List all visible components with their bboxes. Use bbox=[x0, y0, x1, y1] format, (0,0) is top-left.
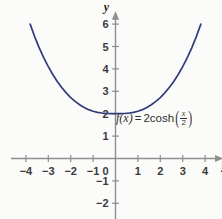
y-tick-label: −2 bbox=[96, 197, 109, 209]
equation-fraction-denominator: 2 bbox=[180, 119, 186, 127]
y-tick-label: −1 bbox=[96, 175, 109, 187]
graph-figure: −4−3−2−101234−2−1123456 yx f(x)=2cosh(x2… bbox=[0, 0, 222, 219]
y-axis-name: y bbox=[102, 0, 110, 14]
y-tick-label: 3 bbox=[102, 85, 108, 97]
x-tick-label: 4 bbox=[202, 165, 209, 177]
y-tick-label: 1 bbox=[102, 130, 108, 142]
equation-close-paren: ) bbox=[188, 111, 192, 126]
x-tick-label: 2 bbox=[157, 165, 163, 177]
y-tick-label: 4 bbox=[102, 63, 109, 75]
y-tick-label: 6 bbox=[102, 18, 108, 30]
axis-names: yx bbox=[102, 0, 222, 175]
equation-function-name: f(x) bbox=[116, 111, 133, 125]
equation-coefficient-function: 2cosh bbox=[143, 112, 174, 124]
function-equation-label: f(x)=2cosh(x2) bbox=[116, 110, 193, 128]
equation-open-paren: ( bbox=[175, 111, 179, 126]
x-tick-label: 1 bbox=[135, 165, 141, 177]
equation-fraction: x2 bbox=[180, 110, 186, 128]
x-tick-label: 3 bbox=[180, 165, 186, 177]
x-axis-name: x bbox=[220, 161, 222, 175]
x-tick-label: −3 bbox=[42, 165, 55, 177]
x-tick-label: −4 bbox=[20, 165, 33, 177]
equation-equals-sign: = bbox=[133, 112, 144, 124]
y-axis-arrow bbox=[112, 11, 119, 19]
x-tick-label: −2 bbox=[64, 165, 77, 177]
y-tick-label: 5 bbox=[102, 41, 108, 53]
